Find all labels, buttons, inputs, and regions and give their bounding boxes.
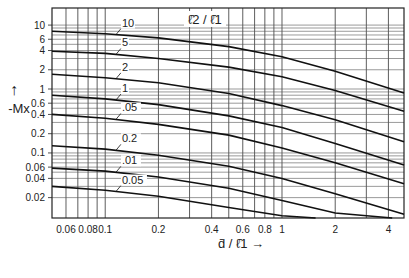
chart: 10521.050.2.010.05 0.060.080.10.20.40.60… <box>0 0 409 278</box>
x-tick-label: 0.6 <box>236 224 250 235</box>
x-tick-label: 4 <box>386 224 392 235</box>
x-tick-label: 0.08 <box>78 224 98 235</box>
x-tick-label: 2 <box>332 224 338 235</box>
curve-label: .05 <box>122 101 137 113</box>
x-tick-label: 1 <box>279 224 285 235</box>
y-tick-label: 10 <box>34 20 46 31</box>
y-tick-label: 4 <box>39 45 45 56</box>
y-tick-label: 6 <box>39 34 45 45</box>
curve-10 <box>52 31 404 93</box>
curve-label: 5 <box>122 36 128 48</box>
curve-0.1 <box>52 168 392 218</box>
curve-0.05 <box>52 186 316 218</box>
curve-5 <box>52 51 404 111</box>
y-axis-arrow: ↑ <box>10 81 18 98</box>
curve-label-leader <box>116 73 121 79</box>
y-tick-label: 0.06 <box>26 162 46 173</box>
x-tick-label: 0.8 <box>258 224 272 235</box>
y-tick-label: 0.02 <box>26 192 46 203</box>
x-tick-labels: 0.060.080.10.20.40.60.8124 <box>56 224 391 235</box>
x-tick-label: 0.2 <box>151 224 165 235</box>
y-axis-title: -Mx <box>8 101 30 116</box>
curve-label-leader <box>116 144 121 150</box>
legend-title-text: ℓ̄2 / ℓ̄1 <box>188 12 222 27</box>
legend-title: ℓ̄2 / ℓ̄1 <box>184 11 226 27</box>
x-tick-label: 0.06 <box>56 224 76 235</box>
y-tick-label: 0.4 <box>31 109 45 120</box>
y-tick-label: 0.6 <box>31 98 45 109</box>
x-tick-label: 0.1 <box>98 224 112 235</box>
y-tick-label: 0.1 <box>31 147 45 158</box>
y-tick-label: 1 <box>39 84 45 95</box>
curve-label: 10 <box>122 17 134 29</box>
y-tick-label: 0.2 <box>31 128 45 139</box>
curve-1 <box>52 95 404 165</box>
x-axis-title: d̄ / ℓ̄1 → <box>218 236 264 251</box>
y-tick-label: 0.04 <box>26 173 46 184</box>
curve-label-leader <box>116 29 121 35</box>
curves: 10521.050.2.010.05 <box>52 17 404 218</box>
curve-label: .01 <box>122 154 137 166</box>
y-axis-label: ↑ -Mx <box>8 81 30 116</box>
curve-label: 2 <box>122 61 128 73</box>
x-tick-label: 0.4 <box>205 224 219 235</box>
grid <box>52 8 404 218</box>
curve-label: 0.2 <box>122 132 137 144</box>
curve-label: 0.05 <box>122 174 143 186</box>
curve-label: 1 <box>122 82 128 94</box>
curve-label-leader <box>116 48 121 54</box>
y-tick-label: 2 <box>39 64 45 75</box>
